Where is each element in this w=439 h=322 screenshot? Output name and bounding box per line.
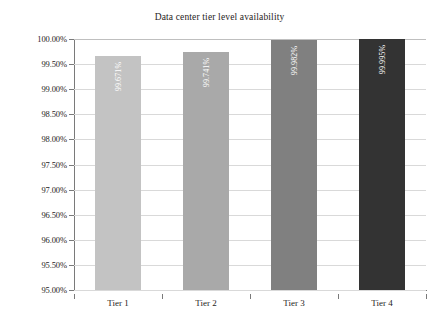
x-axis-tick bbox=[162, 294, 163, 299]
y-axis-label: 97.00% bbox=[41, 185, 67, 195]
y-axis-label: 100.00% bbox=[37, 34, 67, 44]
plot-area: 100.00%99.50%99.00%98.50%98.00%97.50%97.… bbox=[74, 39, 426, 290]
x-axis-tick bbox=[74, 294, 75, 299]
x-axis-category-label: Tier 1 bbox=[107, 298, 128, 308]
chart-title: Data center tier level availability bbox=[0, 12, 439, 22]
bar[interactable]: 99.671% bbox=[95, 56, 141, 290]
y-axis-label: 99.50% bbox=[41, 59, 67, 69]
bar[interactable]: 99.995% bbox=[359, 39, 405, 290]
bar-value-label: 99.671% bbox=[114, 61, 123, 90]
y-axis-label: 99.00% bbox=[41, 84, 67, 94]
x-axis-tick bbox=[338, 294, 339, 299]
bars-group: 99.671%99.741%99.982%99.995% bbox=[74, 39, 426, 290]
y-axis-label: 95.50% bbox=[41, 260, 67, 270]
x-axis-category-label: Tier 3 bbox=[283, 298, 304, 308]
chart-container: Data center tier level availability 100.… bbox=[0, 0, 439, 322]
x-axis-tick bbox=[426, 294, 427, 299]
y-axis-tick bbox=[69, 290, 74, 291]
x-axis-tick bbox=[250, 294, 251, 299]
y-axis-label: 96.50% bbox=[41, 210, 67, 220]
y-axis-label: 97.50% bbox=[41, 160, 67, 170]
y-axis-label: 98.50% bbox=[41, 109, 67, 119]
y-axis-label: 96.00% bbox=[41, 235, 67, 245]
bar[interactable]: 99.741% bbox=[183, 52, 229, 290]
bar[interactable]: 99.982% bbox=[271, 40, 317, 290]
y-axis-label: 95.00% bbox=[41, 285, 67, 295]
x-axis-category-label: Tier 4 bbox=[371, 298, 392, 308]
bar-value-label: 99.982% bbox=[290, 46, 299, 75]
x-axis-category-label: Tier 2 bbox=[195, 298, 216, 308]
bar-value-label: 99.741% bbox=[202, 58, 211, 87]
y-axis-label: 98.00% bbox=[41, 134, 67, 144]
x-axis-labels-group: Tier 1Tier 2Tier 3Tier 4 bbox=[74, 294, 427, 314]
bar-value-label: 99.995% bbox=[378, 45, 387, 74]
gridline bbox=[74, 290, 426, 291]
